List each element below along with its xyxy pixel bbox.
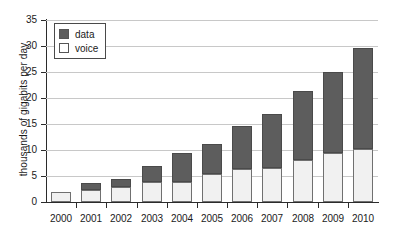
x-tick-mark [227, 203, 228, 208]
x-tick-mark [167, 203, 168, 208]
x-tick-mark [348, 203, 349, 208]
stacked-bar-chart: thousands of gigabits per day 0510152025… [0, 0, 394, 244]
bar-segment-voice[interactable] [262, 168, 282, 202]
bar-segment-data[interactable] [323, 72, 343, 153]
bar-segment-voice[interactable] [51, 192, 71, 202]
bar-segment-data[interactable] [111, 179, 131, 187]
y-tick-mark [41, 176, 46, 177]
legend-label-voice: voice [75, 43, 98, 54]
y-tick-label: 30 [16, 41, 37, 51]
bar-segment-voice[interactable] [323, 153, 343, 202]
bar-segment-voice[interactable] [232, 169, 252, 202]
bar-group[interactable] [202, 20, 222, 202]
y-tick-label: 15 [16, 119, 37, 129]
x-tick-mark [257, 203, 258, 208]
bar-segment-voice[interactable] [81, 190, 101, 202]
bar-group[interactable] [172, 20, 192, 202]
bar-group[interactable] [293, 20, 313, 202]
x-tick-mark [137, 203, 138, 208]
bar-segment-data[interactable] [232, 126, 252, 169]
x-tick-mark [106, 203, 107, 208]
bar-segment-data[interactable] [293, 91, 313, 160]
x-tick-label: 2010 [341, 213, 385, 224]
bar-segment-voice[interactable] [111, 187, 131, 202]
bar-group[interactable] [142, 20, 162, 202]
bar-segment-data[interactable] [353, 48, 373, 149]
x-tick-mark [76, 203, 77, 208]
bar-segment-data[interactable] [172, 153, 192, 182]
bar-group[interactable] [262, 20, 282, 202]
legend-swatch-data-icon [59, 29, 69, 39]
x-axis-line [46, 202, 379, 203]
bar-segment-voice[interactable] [353, 149, 373, 202]
x-tick-mark [287, 203, 288, 208]
legend-swatch-voice-icon [59, 43, 69, 53]
bar-segment-data[interactable] [262, 114, 282, 168]
bar-group[interactable] [353, 20, 373, 202]
x-tick-mark [197, 203, 198, 208]
y-tick-label: 0 [16, 197, 37, 207]
bar-segment-data[interactable] [202, 144, 222, 174]
y-tick-mark [41, 124, 46, 125]
bar-segment-data[interactable] [81, 183, 101, 190]
bar-segment-voice[interactable] [293, 160, 313, 202]
y-tick-mark [41, 72, 46, 73]
y-tick-label: 25 [16, 67, 37, 77]
y-tick-mark [41, 46, 46, 47]
chart-legend: data voice [54, 23, 106, 59]
y-tick-mark [41, 20, 46, 21]
legend-label-data: data [75, 29, 94, 40]
y-tick-mark [41, 202, 46, 203]
y-tick-mark [41, 98, 46, 99]
y-tick-mark [41, 150, 46, 151]
legend-item-voice: voice [59, 41, 98, 55]
bar-segment-data[interactable] [142, 166, 162, 182]
legend-item-data: data [59, 27, 98, 41]
bar-group[interactable] [232, 20, 252, 202]
y-tick-label: 35 [16, 15, 37, 25]
bar-group[interactable] [111, 20, 131, 202]
y-tick-label: 5 [16, 171, 37, 181]
bar-segment-voice[interactable] [202, 174, 222, 202]
bar-group[interactable] [323, 20, 343, 202]
y-tick-label: 10 [16, 145, 37, 155]
bar-segment-voice[interactable] [172, 182, 192, 202]
bar-segment-voice[interactable] [142, 182, 162, 202]
y-tick-label: 20 [16, 93, 37, 103]
x-tick-mark [318, 203, 319, 208]
